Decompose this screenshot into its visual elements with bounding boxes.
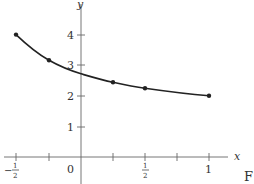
- data-point: [47, 58, 51, 62]
- y-axis-label: y: [76, 0, 84, 11]
- y-tick-label-4: 4: [67, 29, 74, 42]
- svg-text:2: 2: [143, 172, 147, 180]
- data-point: [143, 86, 147, 90]
- panel-label: F: [244, 169, 253, 184]
- line-chart: 4 3 2 1 y x 0 1 − 1 2 1 2 F: [0, 0, 254, 184]
- y-tick-label-2: 2: [67, 90, 74, 103]
- data-point: [111, 80, 115, 84]
- svg-text:−: −: [4, 165, 12, 176]
- y-tick-label-3: 3: [67, 59, 74, 72]
- svg-text:2: 2: [13, 172, 17, 180]
- x-tick-label-neg-half: − 1 2: [4, 162, 19, 180]
- y-tick-label-1: 1: [67, 121, 74, 134]
- x-tick-label-1: 1: [205, 163, 212, 176]
- x-tick-label-0: 0: [67, 163, 74, 176]
- svg-text:1: 1: [143, 162, 147, 170]
- data-point: [207, 94, 211, 98]
- svg-text:1: 1: [13, 162, 17, 170]
- x-tick-label-half: 1 2: [142, 162, 149, 180]
- x-axis-label: x: [234, 150, 241, 163]
- curve: [16, 35, 209, 96]
- data-point: [14, 32, 18, 36]
- data-points: [14, 32, 211, 98]
